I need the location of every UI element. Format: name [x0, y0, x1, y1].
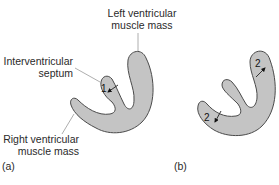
- heart-cross-section-diagram: 1 2 2: [0, 0, 279, 185]
- marker-label: 2: [255, 58, 261, 69]
- leader-right-ventricular: [62, 114, 74, 134]
- marker-label: 2: [204, 112, 210, 123]
- ventricle-muscle-shape-a: [71, 51, 154, 132]
- marker-label: 1: [101, 83, 107, 94]
- leader-septum: [75, 68, 100, 82]
